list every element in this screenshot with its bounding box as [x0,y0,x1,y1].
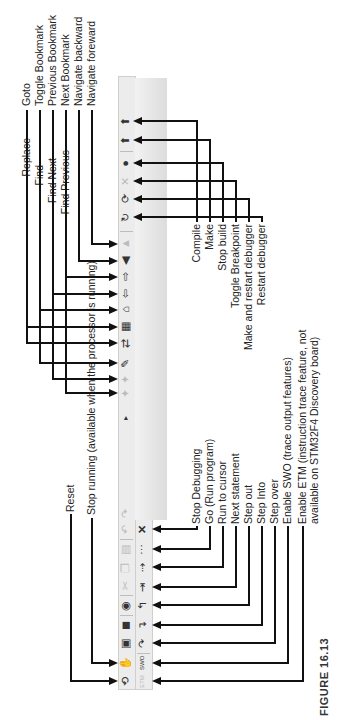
cut-icon[interactable]: ✂ [119,579,132,592]
toolbar-separator [137,653,150,654]
toolbar-separator [120,151,133,152]
find-previous-icon[interactable]: ✦ [119,387,132,400]
arrow-icon [152,601,161,609]
restart-debugger-icon[interactable]: ↻ [119,211,132,224]
callout-line [39,362,110,364]
callout-line [52,378,110,380]
label-stop-build: Stop build [216,224,228,300]
arrow-icon [109,375,118,383]
go-icon[interactable]: ⋯ [136,543,149,556]
toggle-bookmark-icon[interactable]: ⌂ [119,303,132,316]
callout-line [235,526,237,588]
callout-line [65,276,110,278]
label-run-to-cursor: Run to cursor [216,461,228,524]
step-over-icon[interactable]: ↷ [136,637,149,650]
callout-line [70,680,110,682]
label-step-over: Step over [268,479,280,524]
stop-build-icon[interactable]: ● [119,157,132,170]
callout-line [160,680,303,682]
label-step-into: Step Into [255,482,267,524]
arrow-icon [152,525,161,533]
toolbar-separator [120,231,133,232]
label-navigate-forward: Navigate foreward [85,21,97,106]
make-restart-debugger-icon[interactable]: ⟳ [119,192,132,205]
callout-line [160,528,197,530]
callout-line [78,110,80,262]
figure-caption: FIGURE 16.13 [318,638,330,716]
arrow-icon [109,306,118,314]
previous-bookmark-icon[interactable]: ⇦ [119,287,132,300]
callout-line [70,514,72,682]
next-statement-icon[interactable]: ⇥ [136,581,149,594]
run-to-cursor-icon[interactable]: ⇢ [136,561,149,574]
callout-line [209,526,211,550]
callout-line [140,216,263,218]
arrow-icon [152,583,161,591]
arrow-icon [152,677,161,685]
callout-line [26,110,28,328]
callout-line [196,526,198,530]
stop-running-icon[interactable]: ✋ [119,657,132,670]
toolbar-background [135,78,167,520]
label-go: Go (Run program) [203,439,215,524]
arrow-icon [133,117,142,125]
arrow-icon [152,621,161,629]
compile-icon[interactable]: ⬆ [119,115,132,128]
find-icon[interactable]: ✎ [119,357,132,370]
navigate-forward-icon[interactable]: ▲ [119,237,132,250]
label-goto: Goto [20,83,32,106]
callout-line [160,604,249,606]
enable-swo-icon[interactable]: SWO [136,657,149,670]
callout-line [261,526,263,626]
toolbar-separator [120,539,133,540]
callout-line [39,110,41,311]
callout-line [52,110,54,295]
callout-line [91,110,93,245]
label-next-bookmark: Next Bookmark [59,34,71,106]
callout-line [140,180,237,182]
label-previous-bookmark: Previous Bookmark [46,15,58,106]
arrow-icon [133,159,142,167]
callout-line [274,526,276,644]
arrow-icon [133,213,142,221]
callout-line [222,526,224,568]
stop-debugging-icon[interactable]: ✕ [136,523,149,536]
arrow-icon [109,290,118,298]
callout-line [160,642,275,644]
callout-line [222,162,224,222]
arrow-icon [109,659,118,667]
reset-icon[interactable]: ⟲ [119,675,132,688]
callout-line [140,139,211,141]
redo-icon[interactable]: ↷ [119,507,132,520]
arrow-icon [109,359,118,367]
arrow-icon [109,273,118,281]
navigate-backward-icon[interactable]: ◀ [119,254,132,267]
step-into-icon[interactable]: ↴ [136,619,149,632]
save-all-icon[interactable]: ◼ [119,619,132,632]
find-next-icon[interactable]: ✦ [119,373,132,386]
enable-etm-icon[interactable]: ETM [136,675,149,688]
callout-line [140,198,250,200]
step-out-icon[interactable]: ↰ [136,599,149,612]
save-icon[interactable]: ▣ [119,637,132,650]
callout-line [160,624,262,626]
label-make-restart-debugger: Make and restart debugger [242,224,254,360]
replace-icon[interactable]: ⇄ [119,337,132,350]
make-icon[interactable]: ⬆ [119,134,132,147]
goto-icon[interactable]: ▦ [119,320,132,333]
arrow-icon [109,389,118,397]
paste-icon[interactable]: ▤ [119,543,132,556]
copy-icon[interactable]: ❐ [119,561,132,574]
arrow-icon [133,177,142,185]
arrow-icon [109,339,118,347]
overflow-arrow-icon[interactable]: ▸ [119,411,132,424]
arrow-icon [109,240,118,248]
next-bookmark-icon[interactable]: ⇨ [119,270,132,283]
label-step-out: Step out [242,485,254,524]
figure-canvas: ⟲ ✋ ▣ ◼ ◉ ✂ ❐ ▤ ↶ ↷ ▸ ✦ ✦ ✎ ⇄ ▦ ⌂ ⇦ ⇨ ◀ … [0,0,344,720]
callout-line [78,260,110,262]
callout-line [39,309,110,311]
undo-icon[interactable]: ↶ [119,523,132,536]
toggle-breakpoint-icon[interactable]: ✕ [119,175,132,188]
open-icon[interactable]: ◉ [119,599,132,612]
